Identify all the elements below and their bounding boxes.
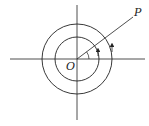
polar-diagram: O P [0, 0, 149, 126]
angle-arc [87, 52, 89, 59]
ray-op [77, 17, 133, 59]
origin-label: O [66, 60, 75, 73]
point-label: P [133, 6, 142, 19]
